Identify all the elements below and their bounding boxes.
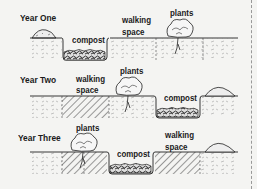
walking-space-label: walking [165, 131, 194, 140]
walking-space-label: walking [122, 16, 151, 25]
year-three-label: Year Three [18, 133, 61, 142]
plants-label: plants [170, 9, 193, 18]
year-one-label: Year One [20, 13, 56, 22]
soil-mound-icon [205, 87, 235, 96]
compost-label: compost [117, 150, 150, 159]
page-edge-divider [251, 0, 252, 189]
compost-pile-icon [157, 108, 198, 118]
year-one-row [30, 19, 238, 60]
walking-space-label-line2: space [122, 28, 144, 37]
year-two-row [30, 77, 238, 118]
walking-space-label-line2: space [165, 143, 187, 152]
walking-space-label-line2: space [76, 86, 98, 95]
compost-pile-icon [110, 164, 151, 174]
compost-label: compost [164, 94, 197, 103]
compost-pile-icon [64, 50, 105, 61]
plants-label: plants [120, 67, 143, 76]
soil-mound-icon [205, 143, 235, 152]
soil-mound-icon [32, 30, 56, 38]
compost-label: compost [72, 36, 105, 45]
year-two-label: Year Two [20, 75, 56, 84]
plants-label: plants [76, 124, 99, 133]
walking-space-label: walking [76, 75, 105, 84]
